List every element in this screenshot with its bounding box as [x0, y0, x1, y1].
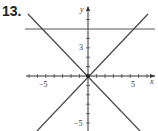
line-y-equals-neg-x: [28, 14, 140, 131]
coordinate-plane: x y −5 5 3 −5: [0, 0, 158, 131]
graph-figure: 13. x y −5 5 3 −5: [0, 0, 158, 131]
line-y-equals-x: [37, 14, 148, 131]
y-tick-label-neg5: −5: [74, 119, 83, 128]
y-tick-label-3: 3: [79, 43, 83, 52]
y-axis-label: y: [79, 5, 84, 14]
x-tick-label-5: 5: [131, 80, 135, 89]
x-tick-label-neg5: −5: [39, 80, 48, 89]
x-axis-label: x: [149, 77, 154, 86]
origin-point: [86, 74, 90, 78]
